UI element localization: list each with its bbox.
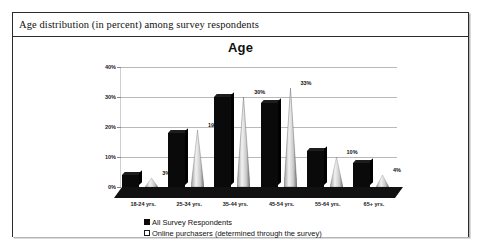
bar-all-survey-respondents [168,133,185,187]
y-axis-tick-label: 20% [105,124,116,130]
y-axis-tick-label: 30% [105,94,116,100]
legend-label: All Survey Respondents [152,218,232,227]
figure-caption: Age distribution (in percent) among surv… [13,19,259,30]
cone-online-purchasers [145,178,158,187]
chart-area: Age 0%10%20%30%40% 3%19%30%33%10%4% 18-2… [13,37,468,237]
figure-frame: Age distribution (in percent) among surv… [12,12,469,237]
figure-caption-bar: Age distribution (in percent) among surv… [13,13,468,37]
bar-all-survey-respondents [214,97,231,187]
cone-online-purchasers [330,157,343,187]
bar-group: 33% [259,57,305,187]
category-label: 35-44 yrs. [223,201,248,207]
legend-item-all-survey-respondents: All Survey Respondents [144,217,322,227]
bar-group: 4% [351,57,397,187]
hollow-square-icon [144,230,150,236]
cone-online-purchasers [191,130,204,187]
category-label: 18-24 yrs. [130,201,155,207]
cone-online-purchasers [376,175,389,187]
category-label: 55-64 yrs. [315,201,340,207]
chart-legend: All Survey Respondents Online purchasers… [144,217,322,239]
bar-group: 30% [212,57,258,187]
bar-all-survey-respondents [261,103,278,187]
y-axis-tick-label: 10% [105,154,116,160]
category-label: 25-34 yrs. [177,201,202,207]
category-label: 45-54 yrs. [269,201,294,207]
bar-group: 3% [120,57,166,187]
cone-online-purchasers [284,88,297,187]
y-axis-tick-label: 40% [105,64,116,70]
bar-all-survey-respondents [307,151,324,187]
bar-group: 10% [305,57,351,187]
bar-all-survey-respondents [353,163,370,187]
bar-all-survey-respondents [122,175,139,187]
data-label: 4% [393,167,401,173]
legend-item-online-purchasers: Online purchasers (determined through th… [144,228,322,238]
category-label: 65+ yrs. [364,201,385,207]
legend-label: Online purchasers (determined through th… [152,229,322,238]
category-axis-labels: 18-24 yrs.25-34 yrs.35-44 yrs.45-54 yrs.… [120,201,397,213]
filled-square-icon [144,219,150,225]
bar-group: 19% [166,57,212,187]
cone-online-purchasers [237,97,250,187]
